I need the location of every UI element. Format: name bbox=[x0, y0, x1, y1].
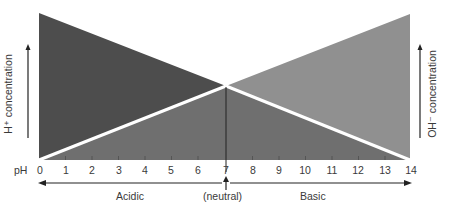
tick-5: 5 bbox=[168, 164, 174, 176]
tick-10: 10 bbox=[299, 164, 311, 176]
tick-7: 7 bbox=[223, 164, 229, 176]
tick-13: 13 bbox=[379, 164, 391, 176]
tick-1: 1 bbox=[63, 164, 69, 176]
tick-11: 11 bbox=[327, 164, 338, 176]
oh-concentration-label: OH⁻ concentration bbox=[426, 50, 438, 138]
ph-axis-label: pH bbox=[14, 164, 27, 176]
tick-4: 4 bbox=[142, 164, 148, 176]
tick-3: 3 bbox=[116, 164, 122, 176]
tick-6: 6 bbox=[195, 164, 201, 176]
tick-12: 12 bbox=[352, 164, 364, 176]
basic-label: Basic bbox=[300, 190, 326, 202]
h-concentration-label: H⁺ concentration bbox=[2, 54, 14, 134]
tick-14: 14 bbox=[405, 164, 417, 176]
tick-9: 9 bbox=[276, 164, 282, 176]
tick-8: 8 bbox=[250, 164, 256, 176]
tick-0: 0 bbox=[37, 164, 43, 176]
neutral-label: (neutral) bbox=[203, 190, 242, 202]
ph-scale-diagram bbox=[0, 0, 452, 212]
tick-2: 2 bbox=[89, 164, 95, 176]
acidic-label: Acidic bbox=[116, 190, 144, 202]
